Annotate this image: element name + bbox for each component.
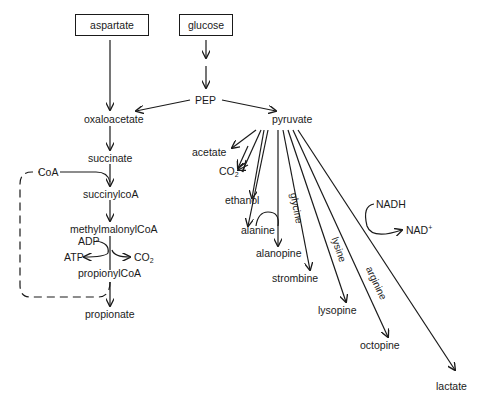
node-alanine: alanine — [241, 225, 275, 236]
glucose-label: glucose — [188, 19, 224, 31]
node-lactate: lactate — [436, 381, 467, 392]
node-pep: PEP — [195, 95, 216, 106]
node-co2-right: CO2 — [219, 166, 239, 178]
node-oxaloacetate: oxaloacetate — [84, 114, 144, 125]
edge-coa-in — [60, 172, 110, 182]
co2-subscript: 2 — [235, 171, 239, 178]
node-lysopine: lysopine — [318, 305, 357, 316]
node-propionate: propionate — [85, 309, 135, 320]
node-pyruvate: pyruvate — [272, 114, 312, 125]
co2-text: CO — [219, 165, 235, 177]
node-succinylcoa: succinylcoA — [83, 189, 138, 200]
node-acetate: acetate — [192, 147, 226, 158]
edge-pyruvate-ethanol — [252, 130, 264, 198]
edge-pyruvate-lactate — [298, 130, 455, 370]
node-propionylcoa: propionylCoA — [78, 268, 141, 279]
aspartate-label: aspartate — [90, 19, 134, 31]
edge-pyruvate-alanine — [248, 130, 268, 226]
node-methylmalonylcoa: methylmalonylCoA — [70, 224, 158, 235]
node-nadh: NADH — [376, 199, 406, 210]
edge-co2-out — [112, 250, 130, 257]
node-alanopine: alanopine — [256, 248, 302, 259]
nad-text: NAD — [406, 224, 428, 236]
co2-subscript: 2 — [150, 257, 154, 264]
edge-pep-pyruvate — [222, 100, 276, 111]
node-succinate: succinate — [88, 153, 132, 164]
node-ethanol: ethanol — [225, 195, 259, 206]
node-octopine: octopine — [360, 340, 400, 351]
node-aspartate: aspartate — [75, 14, 149, 36]
node-strombine: strombine — [272, 273, 318, 284]
node-glucose: glucose — [179, 14, 233, 36]
edge-pyruvate-acetate — [232, 130, 256, 148]
node-coa: CoA — [38, 167, 58, 178]
edge-branch-co2 — [238, 146, 248, 168]
node-adp: ADP — [78, 236, 100, 247]
nad-superscript: + — [428, 224, 432, 231]
node-co2-left: CO2 — [134, 252, 154, 264]
edge-pep-oxaloacetate — [136, 100, 190, 111]
node-atp: ATP — [64, 252, 84, 263]
node-nad: NAD+ — [406, 224, 432, 236]
co2-text: CO — [134, 251, 150, 263]
